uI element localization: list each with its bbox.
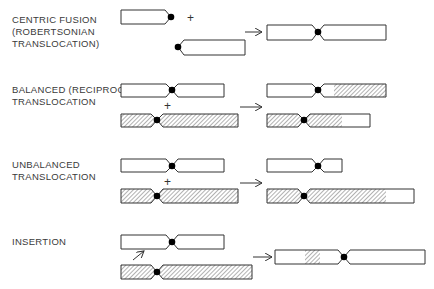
unbalanced-result-2 (267, 189, 414, 203)
plus-operator: + (164, 99, 171, 113)
centric-fusion-acrocentric-2 (175, 40, 245, 55)
rearrangement-diagram: + + (0, 0, 434, 289)
insertion-hatched-chromosome (121, 265, 252, 279)
insertion-normal-chromosome (121, 235, 224, 249)
balanced-result-2 (267, 114, 370, 127)
unbalanced-normal-chromosome (121, 159, 224, 172)
plus-operator: + (164, 175, 171, 189)
balanced-hatched-chromosome (121, 114, 238, 127)
diagonal-arrow-icon (133, 251, 144, 260)
centric-fusion-acrocentric-1 (121, 10, 174, 24)
centric-fusion-result (267, 25, 386, 40)
plus-operator: + (187, 11, 194, 25)
balanced-result-1 (267, 84, 386, 97)
unbalanced-result-1 (267, 159, 342, 172)
unbalanced-hatched-chromosome (121, 189, 238, 203)
balanced-normal-chromosome (121, 84, 224, 97)
insertion-result (275, 250, 425, 264)
